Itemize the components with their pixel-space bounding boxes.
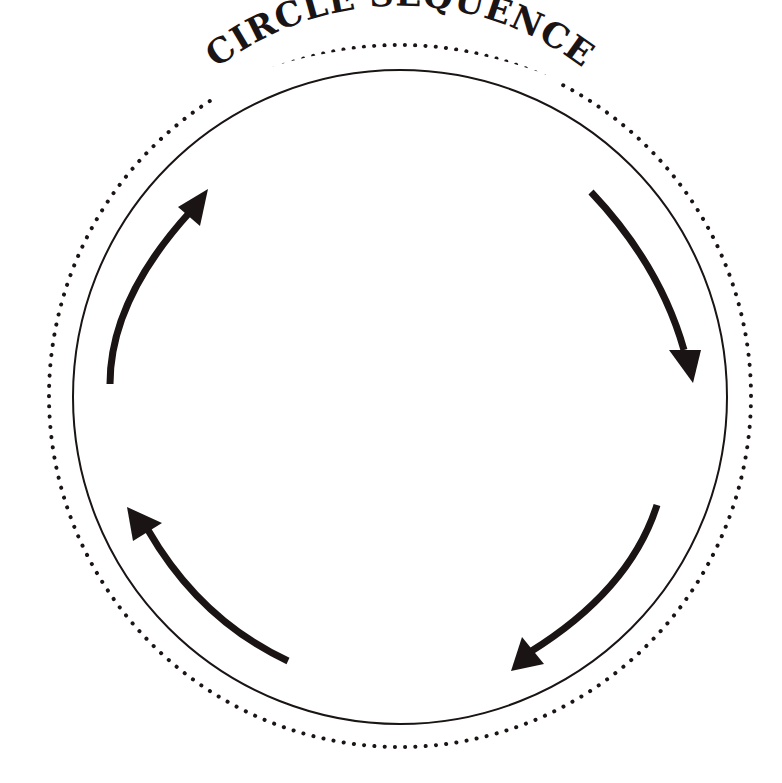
arrow-top-left-icon (110, 189, 208, 384)
arrow-top-right-icon (591, 192, 701, 383)
outer-dotted-circle (49, 45, 751, 747)
inner-circle (73, 70, 727, 724)
arrow-bottom-right-icon (511, 505, 657, 671)
circle-sequence-diagram: CIRCLE SEQUENCE (0, 0, 782, 783)
arrow-bottom-left-icon (127, 507, 288, 661)
